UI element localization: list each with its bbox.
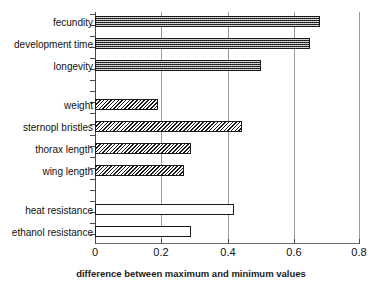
y-tick (90, 36, 95, 37)
x-tick-label-0: 0 (75, 246, 115, 258)
cat-label-weight: weight (0, 100, 93, 111)
y-tick (90, 113, 95, 114)
y-tick (90, 190, 95, 191)
y-tick (90, 223, 95, 224)
x-tick (95, 239, 96, 244)
gridline-0.8 (359, 12, 360, 243)
y-tick (90, 14, 95, 15)
cat-label-ethanol-resistance: ethanol resistance (0, 227, 93, 238)
x-tick (161, 239, 162, 244)
bar-thorax-length (95, 143, 191, 154)
cat-label-development-time: development time (0, 39, 93, 50)
x-tick (228, 239, 229, 244)
x-tick (294, 239, 295, 244)
y-tick (90, 201, 95, 202)
bar-longevity (95, 60, 261, 71)
bar-sternopl-bristles (95, 121, 242, 132)
cat-label-longevity: longevity (0, 61, 93, 72)
bar-development-time (95, 38, 310, 49)
x-tick-label-0.8: 0.8 (339, 246, 379, 258)
y-tick (90, 135, 95, 136)
bar-ethanol-resistance (95, 226, 191, 237)
cat-label-sternopl-bristles: sternopl bristles (0, 122, 93, 133)
bar-fecundity (95, 16, 320, 27)
x-axis-title: difference between maximum and minimum v… (0, 268, 382, 279)
bar-wing-length (95, 165, 184, 176)
y-tick (90, 80, 95, 81)
cat-label-thorax-length: thorax length (0, 144, 93, 155)
x-tick-label-0.6: 0.6 (274, 246, 314, 258)
x-tick (359, 239, 360, 244)
x-tick-label-0.2: 0.2 (141, 246, 181, 258)
x-tick-label-0.4: 0.4 (208, 246, 248, 258)
bar-weight (95, 99, 158, 110)
cat-label-heat-resistance: heat resistance (0, 205, 93, 216)
bar-chart: fecundity development time longevity wei… (0, 0, 382, 296)
cat-label-fecundity: fecundity (0, 17, 93, 28)
y-tick (90, 58, 95, 59)
cat-label-wing-length: wing length (0, 166, 93, 177)
bar-heat-resistance (95, 204, 234, 215)
y-tick (90, 91, 95, 92)
y-tick (90, 179, 95, 180)
y-tick (90, 157, 95, 158)
